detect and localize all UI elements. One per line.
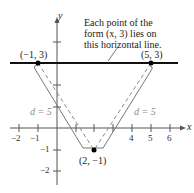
label-point-right: (5, 3) [141, 50, 163, 60]
tick-y-m1: −1 [40, 145, 50, 154]
x-axis-label: x [187, 122, 191, 132]
tick-x-m2: −2 [11, 134, 21, 143]
tick-y-m2: −2 [40, 166, 50, 175]
y-axis-label: y [58, 11, 62, 21]
tick-x-6: 6 [167, 134, 172, 143]
tick-x-4: 4 [129, 134, 134, 143]
figure: y x Each point of the form (x, 3) lies o… [0, 0, 194, 193]
point-right [149, 61, 154, 66]
note-line-1: Each point of the [84, 17, 162, 28]
label-point-left: (−1, 3) [20, 50, 47, 60]
x-axis-arrow-icon [180, 126, 186, 131]
note-line-2: form (x, 3) lies on [84, 28, 162, 39]
note: Each point of the form (x, 3) lies on th… [84, 17, 162, 50]
point-bottom [92, 148, 97, 153]
tick-x-5: 5 [148, 134, 153, 143]
label-d-right: d = 5 [134, 107, 156, 117]
point-left [36, 61, 41, 66]
label-d-left: d = 5 [30, 107, 52, 117]
label-point-bottom: (2, −1) [79, 156, 106, 166]
tick-x-m1: −1 [30, 134, 40, 143]
